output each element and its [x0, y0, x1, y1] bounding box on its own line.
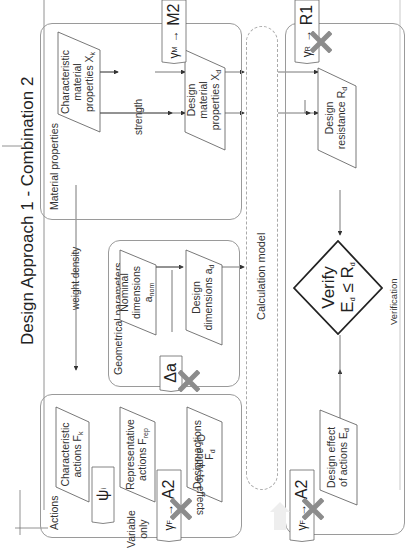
box-design-dimensions: Designdimensions ad — [186, 250, 222, 345]
box-characteristic-material: Characteristicmaterialproperties Xk — [58, 32, 100, 132]
box-nominal-dimensions: Nominaldimensionsanom — [120, 250, 156, 335]
note-variable-only: Variableonly — [125, 510, 149, 548]
factor-psi: ψi — [92, 467, 114, 522]
box-design-resistance: Designresistance Rd — [318, 68, 356, 168]
cross-gamma-r-icon — [310, 31, 332, 53]
edge-label-weight-density: weight density — [70, 247, 81, 310]
box-design-material: Designmaterialproperties Xd — [185, 50, 225, 150]
box-characteristic-actions: Characteristicactions Fk — [56, 407, 89, 502]
calculation-model-label: Calculation model — [255, 233, 267, 320]
edge-label-or-apply-to-effects: Or apply to effects — [195, 434, 206, 515]
factor-gamma-m: γM → M2 — [162, 0, 186, 62]
box-representative-actions: Representativeactions Frep — [120, 407, 155, 502]
edge-label-strength: strength — [133, 99, 144, 135]
verification-label: Verification — [388, 279, 399, 325]
diagram-canvas: Design Approach 1 - Combination 2 Materi… — [0, 0, 413, 550]
box-design-effect: Design effectof actions Ed — [320, 410, 357, 505]
or-apply-arrow-icon — [270, 500, 290, 530]
verify-diamond: Verify Ed ≤ Rd — [293, 240, 383, 335]
group-material-label: Material properties — [48, 123, 60, 210]
cross-gamma-f-effects-icon — [302, 498, 324, 520]
cross-delta-a-icon — [178, 370, 200, 392]
diagram-title: Design Approach 1 - Combination 2 — [18, 77, 38, 345]
cross-gamma-f-actions-icon — [170, 498, 192, 520]
